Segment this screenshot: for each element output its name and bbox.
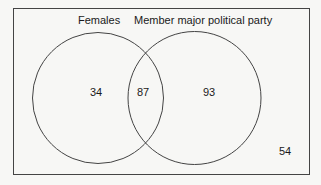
party-member-circle <box>128 32 261 165</box>
outside-count: 54 <box>279 145 291 157</box>
venn-diagram: Females Member major political party 34 … <box>0 0 321 185</box>
intersection-count: 87 <box>137 86 149 98</box>
party-only-count: 93 <box>203 86 215 98</box>
females-label: Females <box>78 14 121 26</box>
females-circle <box>33 33 164 164</box>
party-member-label: Member major political party <box>134 14 273 26</box>
females-only-count: 34 <box>90 86 102 98</box>
